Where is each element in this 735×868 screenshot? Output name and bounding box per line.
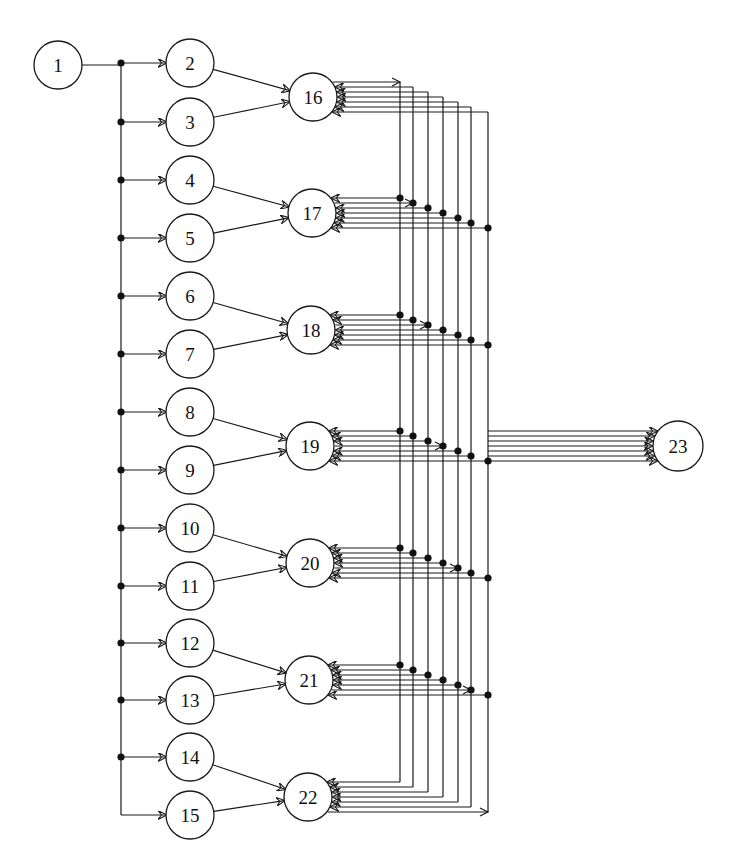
junction-dot xyxy=(409,199,416,206)
node-label: 3 xyxy=(185,112,195,133)
node-7: 7 xyxy=(166,330,214,378)
node-9: 9 xyxy=(166,446,214,494)
edge-10-20 xyxy=(213,535,287,557)
junction-dot xyxy=(454,331,461,338)
edge-15-22 xyxy=(214,801,285,812)
junction-dot xyxy=(484,574,491,581)
junction-dot xyxy=(117,582,124,589)
node-5: 5 xyxy=(166,214,214,262)
edge-9-19 xyxy=(214,451,287,466)
node-label: 10 xyxy=(181,518,200,539)
node-label: 19 xyxy=(301,436,320,457)
node-label: 12 xyxy=(181,633,200,654)
junction-dot xyxy=(424,554,431,561)
node-label: 20 xyxy=(301,553,320,574)
node-18: 18 xyxy=(287,306,335,354)
junction-dot xyxy=(484,457,491,464)
node-label: 21 xyxy=(300,670,319,691)
node-17: 17 xyxy=(288,189,336,237)
junction-dot xyxy=(117,234,124,241)
junction-dot xyxy=(117,292,124,299)
edge-7-18 xyxy=(214,335,288,350)
edge-8-19 xyxy=(213,419,287,440)
junction-dot xyxy=(117,408,124,415)
junction-dot xyxy=(439,559,446,566)
node-3: 3 xyxy=(166,98,214,146)
node-label: 6 xyxy=(185,286,195,307)
edge-11-20 xyxy=(214,568,287,582)
junction-dot xyxy=(439,676,446,683)
junction-dot xyxy=(396,194,403,201)
node-label: 17 xyxy=(303,203,322,224)
junction-dot xyxy=(117,639,124,646)
junction-dot xyxy=(117,118,124,125)
edge-14-22 xyxy=(213,765,286,790)
junction-dot xyxy=(484,691,491,698)
nodes-layer: 1234567891011121314151617181920212223 xyxy=(34,39,703,839)
node-label: 2 xyxy=(185,53,195,74)
junction-dot xyxy=(439,326,446,333)
junction-dot xyxy=(117,350,124,357)
junction-dot xyxy=(117,524,124,531)
junction-dot xyxy=(467,569,474,576)
junction-dot xyxy=(396,544,403,551)
junction-dot xyxy=(409,549,416,556)
node-11: 11 xyxy=(166,562,214,610)
node-20: 20 xyxy=(286,539,334,587)
node-21: 21 xyxy=(285,656,333,704)
junction-dot xyxy=(484,224,491,231)
junction-dot xyxy=(439,442,446,449)
edge-4-17 xyxy=(213,186,289,206)
junction-dot xyxy=(467,686,474,693)
junction-dot xyxy=(454,564,461,571)
junction-dot xyxy=(467,219,474,226)
junction-dot xyxy=(409,316,416,323)
node-12: 12 xyxy=(166,619,214,667)
edge-3-16 xyxy=(214,102,290,117)
junction-dot xyxy=(409,432,416,439)
edge-12-21 xyxy=(213,650,286,673)
junction-dot xyxy=(424,671,431,678)
junction-dot xyxy=(454,447,461,454)
node-label: 16 xyxy=(304,87,323,108)
node-2: 2 xyxy=(166,39,214,87)
node-label: 9 xyxy=(185,460,195,481)
node-19: 19 xyxy=(286,422,334,470)
node-label: 22 xyxy=(299,787,318,808)
node-label: 1 xyxy=(53,55,63,76)
node-label: 23 xyxy=(669,436,688,457)
edge-5-17 xyxy=(214,218,289,233)
network-diagram: 1234567891011121314151617181920212223 xyxy=(0,0,735,868)
node-16: 16 xyxy=(289,73,337,121)
junction-dot xyxy=(117,696,124,703)
node-label: 13 xyxy=(181,690,200,711)
edge-6-18 xyxy=(213,302,288,323)
node-14: 14 xyxy=(166,733,214,781)
node-15: 15 xyxy=(166,791,214,839)
junction-dot xyxy=(424,204,431,211)
node-label: 14 xyxy=(181,747,201,768)
junction-dot xyxy=(467,452,474,459)
edge-2-16 xyxy=(213,69,290,90)
junction-dot xyxy=(424,437,431,444)
junction-dot xyxy=(396,311,403,318)
node-label: 8 xyxy=(185,402,195,423)
node-8: 8 xyxy=(166,388,214,436)
junction-dot xyxy=(117,466,124,473)
node-10: 10 xyxy=(166,504,214,552)
junction-dot xyxy=(467,336,474,343)
junction-dot xyxy=(439,209,446,216)
junction-dot xyxy=(396,661,403,668)
node-23: 23 xyxy=(653,421,703,471)
junction-dot xyxy=(454,681,461,688)
node-label: 18 xyxy=(302,320,321,341)
node-label: 5 xyxy=(185,228,195,249)
node-label: 4 xyxy=(185,170,195,191)
node-label: 11 xyxy=(181,576,199,597)
node-4: 4 xyxy=(166,156,214,204)
junction-dot xyxy=(484,341,491,348)
node-label: 15 xyxy=(181,805,200,826)
node-13: 13 xyxy=(166,676,214,724)
node-6: 6 xyxy=(166,272,214,320)
junction-dot xyxy=(396,427,403,434)
